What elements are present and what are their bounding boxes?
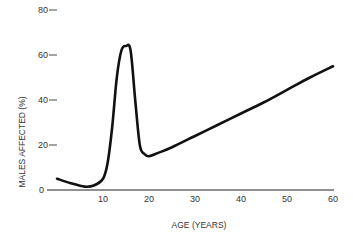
x-axis-label: AGE (YEARS)	[172, 220, 227, 230]
data-line	[57, 45, 333, 187]
y-tick-label: 0	[39, 185, 44, 195]
y-axis: 020406080	[38, 5, 57, 195]
x-tick-label: 10	[98, 194, 108, 204]
y-tick-label: 40	[38, 95, 48, 105]
x-tick-label: 30	[190, 194, 200, 204]
y-tick-label: 80	[38, 5, 48, 15]
y-tick-label: 20	[38, 140, 48, 150]
x-axis: 102030405060	[47, 190, 338, 204]
y-axis-label: MALES AFFECTED (%)	[17, 96, 27, 187]
x-tick-label: 60	[328, 194, 338, 204]
chart: 020406080 102030405060 MALES AFFECTED (%…	[0, 0, 353, 242]
x-tick-label: 40	[236, 194, 246, 204]
x-tick-label: 50	[282, 194, 292, 204]
y-tick-label: 60	[38, 50, 48, 60]
x-tick-label: 20	[144, 194, 154, 204]
